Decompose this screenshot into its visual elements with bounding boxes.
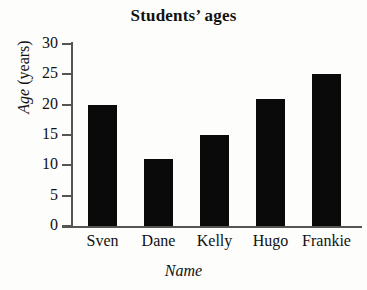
y-axis-tick — [62, 195, 71, 197]
bar — [144, 159, 173, 226]
y-axis-tick-label: 5 — [14, 187, 58, 203]
y-axis-tick — [62, 104, 71, 106]
plot-area — [71, 44, 361, 226]
x-axis-line — [62, 226, 362, 228]
y-axis-tick — [62, 134, 71, 136]
y-axis-tick — [62, 73, 71, 75]
y-axis-tick — [62, 225, 71, 227]
y-axis-title-variable: Age — [15, 89, 32, 114]
y-axis-title-units: (years) — [15, 40, 32, 88]
bar — [200, 135, 229, 226]
bar — [256, 99, 285, 226]
bar — [312, 74, 341, 226]
y-axis-tick-label: 10 — [14, 156, 58, 172]
bar-chart-figure: Students’ ages 051015202530 Age (years) … — [0, 0, 367, 290]
bar — [88, 105, 117, 226]
chart-title: Students’ ages — [0, 6, 367, 26]
y-axis-title: Age (years) — [15, 7, 33, 147]
x-axis-category-label: Frankie — [287, 232, 367, 250]
y-axis-tick — [62, 164, 71, 166]
y-axis-tick — [62, 43, 71, 45]
y-axis-tick-label: 0 — [14, 217, 58, 233]
x-axis-title: Name — [0, 262, 367, 280]
